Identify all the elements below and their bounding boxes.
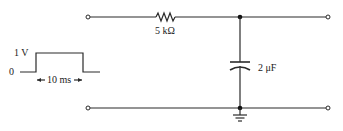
capacitor-label: 2 μF: [258, 62, 277, 73]
circuit-diagram: 1 V 0 10 ms 5 kΩ 2 μF: [0, 0, 343, 131]
pulse-width-label: 10 ms: [47, 74, 71, 85]
top-rail: [86, 13, 330, 21]
pulse-high-label: 1 V: [14, 47, 29, 58]
ground-icon: [233, 108, 247, 121]
resistor-icon: [156, 13, 175, 21]
bottom-rail: [86, 106, 330, 111]
pulse-low-label: 0: [9, 66, 14, 77]
input-terminal-bottom: [86, 106, 90, 110]
input-terminal-top: [86, 15, 90, 19]
input-pulse: 1 V 0 10 ms: [9, 47, 100, 85]
output-terminal-top: [326, 15, 330, 19]
pulse-waveform: [20, 53, 100, 72]
resistor-label: 5 kΩ: [155, 25, 175, 36]
output-terminal-bottom: [326, 106, 330, 110]
capacitor-branch: [230, 17, 250, 108]
